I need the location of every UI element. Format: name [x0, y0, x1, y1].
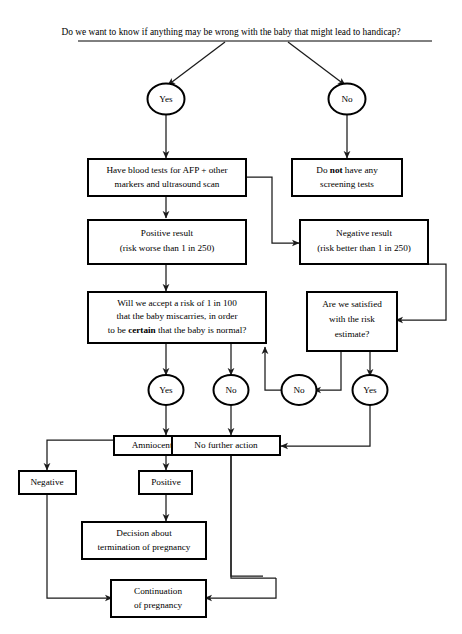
negative-result-line2: (risk better than 1 in 250): [317, 243, 411, 253]
blood-tests-line2: markers and ultrasound scan: [115, 179, 220, 189]
satisfied-line2: with the risk: [329, 314, 375, 324]
node-negative-result[interactable]: Negative result (risk better than 1 in 2…: [300, 220, 428, 264]
node-yes-mid-left[interactable]: Yes: [149, 375, 184, 405]
node-no-mid-right[interactable]: No: [282, 375, 317, 405]
node-amnio-negative[interactable]: Negative: [19, 471, 76, 494]
yes-mid-left-label: Yes: [159, 385, 173, 395]
edge-nofurther-down: [231, 455, 263, 576]
node-no-further-action[interactable]: No further action: [172, 436, 280, 455]
edge-no-back-to-acceptrisk: [265, 347, 281, 390]
no-further-action-label: No further action: [194, 440, 258, 450]
flowchart-svg: Do we want to know if anything may be wr…: [0, 0, 462, 634]
accept-risk-line2: that the baby miscarries, in order: [117, 311, 238, 321]
node-positive-result[interactable]: Positive result (risk worse than 1 in 25…: [88, 220, 246, 264]
yes-mid-right-label: Yes: [363, 385, 377, 395]
node-yes-top[interactable]: Yes: [148, 84, 185, 115]
flowchart-canvas: Do we want to know if anything may be wr…: [0, 0, 462, 634]
node-blood-tests[interactable]: Have blood tests for AFP + other markers…: [88, 159, 246, 196]
yes-top-label: Yes: [159, 94, 173, 104]
negative-result-box: [300, 220, 428, 264]
no-screening-line1-c: have any: [343, 165, 379, 175]
satisfied-line1: Are we satisfied: [322, 299, 382, 309]
node-no-mid-left[interactable]: No: [214, 375, 249, 405]
accept-risk-line3-c: that the baby is normal?: [156, 325, 247, 335]
accept-risk-line3: to be certain that the baby is normal?: [108, 325, 247, 335]
node-accept-risk[interactable]: Will we accept a risk of 1 in 100 that t…: [88, 292, 266, 343]
no-screening-line1-a: Do: [316, 165, 330, 175]
termination-line1: Decision about: [116, 528, 172, 538]
node-continuation[interactable]: Continuation of pregnancy: [111, 580, 206, 617]
termination-line2: termination of pregnancy: [98, 542, 191, 552]
accept-risk-line3-a: to be: [108, 325, 128, 335]
edge-satisfied-to-no: [314, 351, 341, 390]
no-screening-line1: Do not have any: [316, 165, 378, 175]
node-no-screening[interactable]: Do not have any screening tests: [292, 159, 402, 196]
node-no-top[interactable]: No: [329, 84, 366, 115]
continuation-line2: of pregnancy: [134, 600, 183, 610]
edge-nofurther-to-continuation: [205, 578, 276, 598]
edge-root-to-no: [288, 42, 345, 85]
no-mid-left-label: No: [225, 385, 237, 395]
no-top-label: No: [341, 94, 353, 104]
accept-risk-line3-bold: certain: [128, 325, 156, 335]
satisfied-line3: estimate?: [335, 329, 370, 339]
negative-result-line1: Negative result: [336, 228, 392, 238]
no-screening-line2: screening tests: [320, 179, 374, 189]
edge-root-to-yes: [168, 42, 225, 85]
node-satisfied[interactable]: Are we satisfied with the risk estimate?: [307, 292, 397, 351]
amnio-negative-label: Negative: [30, 477, 63, 487]
node-yes-mid-right[interactable]: Yes: [353, 375, 388, 405]
accept-risk-line1: Will we accept a risk of 1 in 100: [117, 298, 237, 308]
positive-result-line2: (risk worse than 1 in 250): [120, 243, 215, 253]
edge-negative-to-satisfied: [396, 264, 446, 320]
no-screening-line1-bold: not: [330, 165, 344, 175]
no-mid-right-label: No: [293, 385, 305, 395]
node-termination-decision[interactable]: Decision about termination of pregnancy: [82, 522, 206, 559]
amnio-positive-label: Positive: [151, 477, 181, 487]
continuation-line1: Continuation: [134, 586, 182, 596]
blood-tests-line1: Have blood tests for AFP + other: [106, 165, 227, 175]
positive-result-box: [88, 220, 246, 264]
edge-yes-to-nofurtheraction: [281, 404, 370, 446]
edge-nofurther-route-a: [231, 455, 276, 578]
node-amnio-positive[interactable]: Positive: [139, 471, 192, 494]
positive-result-line1: Positive result: [141, 228, 194, 238]
root-question-text: Do we want to know if anything may be wr…: [61, 27, 400, 37]
